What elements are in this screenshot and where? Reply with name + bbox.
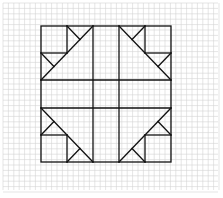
br-triangle-a (158, 122, 171, 136)
quilt-diagram (0, 0, 223, 198)
br-triangle-b (132, 149, 145, 163)
tl-triangle-a (67, 26, 80, 40)
tr-triangle-a (132, 26, 145, 40)
tl-triangle-b (41, 53, 54, 67)
tr-triangle-b (158, 53, 171, 67)
bl-triangle-b (67, 149, 80, 163)
bl-triangle-a (41, 122, 54, 136)
graph-paper-grid (3, 3, 219, 192)
